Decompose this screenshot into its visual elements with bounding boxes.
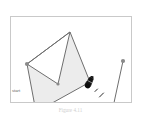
- zigzag-polygon-shape[interactable]: [27, 32, 90, 103]
- screenshot-root: start Figure 4.11: [0, 0, 141, 120]
- start-label: start: [12, 88, 20, 93]
- canvas-vector-layer: [10, 16, 132, 103]
- drag-trail-dashes: [95, 89, 104, 97]
- figure-caption: Figure 4.11: [0, 107, 141, 114]
- standalone-segment[interactable]: [112, 61, 123, 103]
- drawing-canvas[interactable]: start: [10, 16, 132, 103]
- vertex-upper-left[interactable]: [25, 62, 29, 66]
- segment-endpoint-top[interactable]: [121, 59, 125, 63]
- vertex-valley[interactable]: [56, 82, 59, 85]
